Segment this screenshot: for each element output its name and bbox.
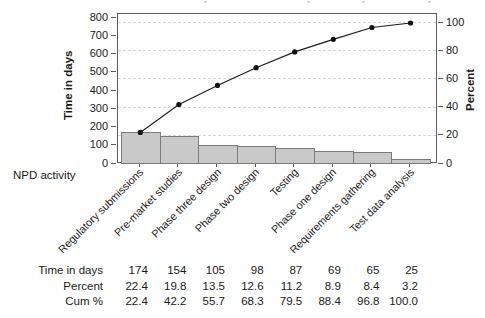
- table-cell-r1-c3: 105: [183, 264, 225, 277]
- table-cell-r2-c1: 22.4: [106, 280, 148, 293]
- table-cell-r1-c7: 65: [337, 264, 379, 277]
- pareto-chart-figure: Time in days Percent NPD activity 010020…: [0, 0, 485, 318]
- table-cell-r3-c2: 42.2: [144, 295, 186, 308]
- left-axis-tick-600: [111, 53, 116, 54]
- right-axis-tick-0: [438, 163, 443, 164]
- right-axis-label-80: 80: [446, 45, 480, 56]
- table-cell-r2-c7: 8.4: [337, 280, 379, 293]
- line-marker-2: [176, 102, 181, 107]
- table-cell-r1-c6: 69: [299, 264, 341, 277]
- x-axis-title: NPD activity: [13, 169, 76, 181]
- left-axis-label-100: 100: [74, 139, 108, 150]
- line-marker-6: [331, 37, 336, 42]
- right-axis-tick-60: [438, 78, 443, 79]
- right-axis-label-60: 60: [446, 73, 480, 84]
- left-axis-label-800: 800: [74, 12, 108, 23]
- right-axis-tick-100: [438, 22, 443, 23]
- table-row-label-cum-: Cum %: [0, 295, 103, 308]
- table-cell-r3-c8: 100.0: [376, 295, 418, 308]
- left-axis-label-200: 200: [74, 121, 108, 132]
- left-axis-label-700: 700: [74, 30, 108, 41]
- table-cell-r2-c8: 3.2: [376, 280, 418, 293]
- line-marker-5: [292, 49, 297, 54]
- table-cell-r1-c8: 25: [376, 264, 418, 277]
- left-axis-label-0: 0: [74, 158, 108, 169]
- line-marker-4: [254, 65, 259, 70]
- left-axis-label-600: 600: [74, 48, 108, 59]
- table-row-label-time-in-days: Time in days: [0, 264, 103, 277]
- right-axis-tick-20: [438, 134, 443, 135]
- table-cell-r3-c7: 96.8: [337, 295, 379, 308]
- left-axis-title: Time in days: [62, 60, 74, 120]
- table-row-label-percent: Percent: [0, 280, 103, 293]
- table-cell-r3-c3: 55.7: [183, 295, 225, 308]
- right-axis-label-20: 20: [446, 129, 480, 140]
- table-cell-r2-c3: 13.5: [183, 280, 225, 293]
- cropped-text-artifact: [307, 1, 310, 3]
- cumulative-percent-line: [118, 14, 438, 164]
- plot-area: [117, 13, 437, 163]
- left-axis-tick-400: [111, 90, 116, 91]
- left-axis-tick-500: [111, 71, 116, 72]
- table-cell-r2-c6: 8.9: [299, 280, 341, 293]
- cumulative-line-path: [140, 23, 410, 132]
- line-marker-1: [138, 130, 143, 135]
- left-axis-tick-200: [111, 126, 116, 127]
- x-category-label-2: Pre-market studies: [112, 166, 185, 239]
- table-cell-r2-c4: 12.6: [222, 280, 264, 293]
- table-cell-r3-c5: 79.5: [260, 295, 302, 308]
- table-cell-r1-c1: 174: [106, 264, 148, 277]
- left-axis-label-400: 400: [74, 85, 108, 96]
- left-axis-label-300: 300: [74, 103, 108, 114]
- right-axis-tick-80: [438, 50, 443, 51]
- table-cell-r2-c2: 19.8: [144, 280, 186, 293]
- table-cell-r3-c1: 22.4: [106, 295, 148, 308]
- table-cell-r1-c4: 98: [222, 264, 264, 277]
- left-axis-tick-800: [111, 17, 116, 18]
- x-category-label-3: Phase three design: [148, 166, 222, 240]
- table-cell-r2-c5: 11.2: [260, 280, 302, 293]
- table-cell-r3-c6: 88.4: [299, 295, 341, 308]
- left-axis-tick-300: [111, 108, 116, 109]
- cropped-text-artifact: [428, 1, 431, 3]
- x-category-label-5: Testing: [267, 166, 300, 199]
- table-cell-r3-c4: 68.3: [222, 295, 264, 308]
- left-axis-label-500: 500: [74, 66, 108, 77]
- line-marker-3: [215, 83, 220, 88]
- right-axis-tick-40: [438, 106, 443, 107]
- cropped-text-artifact: [362, 1, 365, 3]
- cropped-text-artifact: [204, 1, 207, 3]
- line-marker-8: [408, 20, 413, 25]
- left-axis-title-text: Time in days: [62, 51, 74, 120]
- line-marker-7: [369, 25, 374, 30]
- left-axis-tick-100: [111, 144, 116, 145]
- left-axis-tick-0: [111, 163, 116, 164]
- right-axis-label-0: 0: [446, 158, 480, 169]
- table-cell-r1-c5: 87: [260, 264, 302, 277]
- right-axis-label-100: 100: [446, 17, 480, 28]
- right-axis-label-40: 40: [446, 101, 480, 112]
- table-cell-r1-c2: 154: [144, 264, 186, 277]
- left-axis-tick-700: [111, 35, 116, 36]
